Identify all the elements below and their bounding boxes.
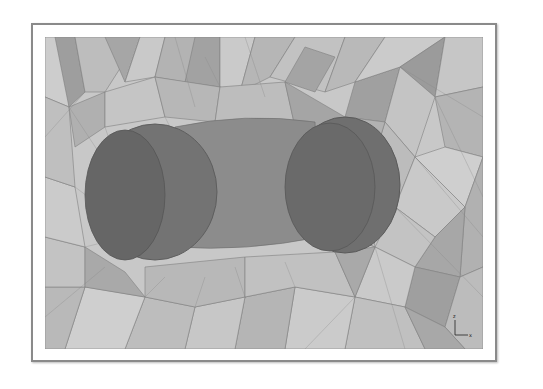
axis-label-z: z bbox=[453, 313, 456, 319]
mesh-render bbox=[45, 37, 483, 349]
figure-frame: z x bbox=[31, 23, 497, 362]
left-cap-front bbox=[85, 130, 165, 260]
dumbbell-body bbox=[85, 117, 400, 260]
axis-label-x: x bbox=[469, 332, 472, 338]
mesh-viewport: z x bbox=[45, 37, 483, 349]
right-cap-front bbox=[285, 123, 375, 251]
